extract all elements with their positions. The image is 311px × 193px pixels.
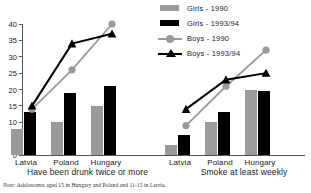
x-label-hungary: Hungary	[76, 158, 136, 167]
chart-note: Note: Adolescents aged 15 in Hungary and…	[3, 182, 166, 188]
plot-area: 0510152025303540	[0, 24, 311, 158]
circle-marker-icon	[108, 20, 115, 27]
x-axis-baseline	[22, 155, 305, 156]
note-prefix: Note:	[3, 182, 16, 188]
circle-marker-icon	[182, 122, 189, 129]
x-label-hungary: Hungary	[230, 158, 290, 167]
triangle-marker-icon	[108, 29, 117, 37]
note-body: Adolescents aged 15 in Hungary and Polan…	[17, 182, 166, 188]
circle-marker-icon	[262, 47, 269, 54]
legend-item-girls-1990: Girls - 1990	[157, 1, 307, 16]
circle-marker-icon	[222, 83, 229, 90]
legend-label-girls-1990: Girls - 1990	[183, 4, 228, 13]
legend-swatch-bar-gray	[157, 1, 183, 16]
line-series-overlay	[0, 24, 311, 155]
panel-title-left: Have been drunk twice or more	[10, 167, 165, 177]
panel-title-right: Smoke at least weekly	[178, 167, 310, 177]
chart-container: Girls - 1990 Girls - 1993/94 Boys - 1990…	[0, 0, 311, 193]
circle-marker-icon	[68, 66, 75, 73]
